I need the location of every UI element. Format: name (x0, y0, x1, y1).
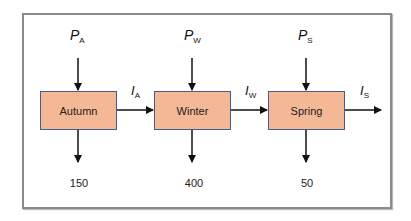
stage-box-spring: Spring (268, 91, 345, 130)
stage-box-winter: Winter (154, 91, 231, 130)
output-label-spring: IS (360, 83, 369, 100)
stage-label: Winter (177, 105, 209, 117)
drain-value-spring: 50 (287, 177, 327, 189)
output-label-autumn: IA (131, 83, 140, 100)
stage-box-autumn: Autumn (40, 91, 117, 130)
stage-label: Autumn (60, 105, 98, 117)
input-label-autumn: PA (70, 27, 85, 45)
input-label-spring: PS (298, 27, 313, 45)
stage-label: Spring (291, 105, 323, 117)
output-label-winter: IW (245, 83, 256, 100)
drain-value-autumn: 150 (59, 177, 99, 189)
input-label-winter: PW (184, 27, 201, 45)
drain-value-winter: 400 (174, 177, 214, 189)
